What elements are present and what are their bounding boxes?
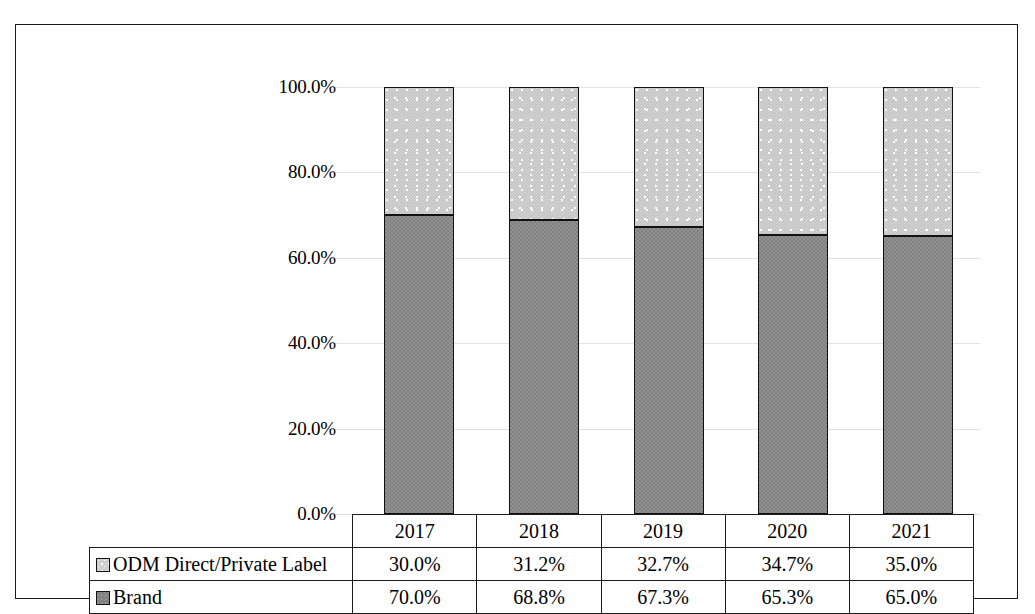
table-cell-value: 35.0% [849, 548, 973, 581]
table-header-year: 2019 [601, 515, 725, 548]
bar-group[interactable] [384, 87, 454, 514]
table-header-year: 2018 [477, 515, 601, 548]
table-cell-value: 67.3% [601, 581, 725, 614]
y-axis: 100.0%80.0%60.0%40.0%20.0%0.0% [218, 87, 336, 514]
y-axis-tick-label: 20.0% [226, 419, 336, 438]
bar-segment-odm-direct-private-label[interactable] [883, 87, 953, 236]
data-table: 20172018201920202021ODM Direct/Private L… [89, 514, 974, 614]
legend-entry[interactable]: ODM Direct/Private Label [90, 548, 353, 581]
bar-group[interactable] [634, 87, 704, 514]
legend-label: Brand [113, 586, 162, 608]
table-cell-value: 65.3% [725, 581, 849, 614]
bar-segment-brand[interactable] [758, 235, 828, 514]
table-row: ODM Direct/Private Label30.0%31.2%32.7%3… [90, 548, 974, 581]
legend-swatch-icon [96, 558, 110, 572]
bar-segment-odm-direct-private-label[interactable] [509, 87, 579, 220]
plot-area [352, 87, 976, 514]
table-cell-value: 32.7% [601, 548, 725, 581]
table-header-row: 20172018201920202021 [90, 515, 974, 548]
y-axis-tick-label: 100.0% [226, 77, 336, 96]
legend-label: ODM Direct/Private Label [113, 553, 327, 575]
table-cell-value: 30.0% [353, 548, 477, 581]
bar-segment-odm-direct-private-label[interactable] [758, 87, 828, 235]
table-header-year: 2020 [725, 515, 849, 548]
bar-segment-odm-direct-private-label[interactable] [384, 87, 454, 215]
bar-segment-odm-direct-private-label[interactable] [634, 87, 704, 227]
chart-outer-border: 100.0%80.0%60.0%40.0%20.0%0.0% 201720182… [15, 24, 1018, 599]
bar-segment-brand[interactable] [509, 220, 579, 514]
table-corner-spacer [90, 515, 353, 548]
table-cell-value: 70.0% [353, 581, 477, 614]
bar-group[interactable] [883, 87, 953, 514]
legend-entry[interactable]: Brand [90, 581, 353, 614]
y-axis-tick-label: 80.0% [226, 162, 336, 181]
table-cell-value: 31.2% [477, 548, 601, 581]
table-header-year: 2021 [849, 515, 973, 548]
legend-swatch-icon [96, 591, 110, 605]
table-cell-value: 34.7% [725, 548, 849, 581]
table-header-year: 2017 [353, 515, 477, 548]
table-cell-value: 68.8% [477, 581, 601, 614]
y-axis-tick-label: 60.0% [226, 248, 336, 267]
y-axis-tick-label: 40.0% [226, 333, 336, 352]
bar-segment-brand[interactable] [883, 236, 953, 514]
table-row: Brand70.0%68.8%67.3%65.3%65.0% [90, 581, 974, 614]
table-cell-value: 65.0% [849, 581, 973, 614]
bar-group[interactable] [509, 87, 579, 514]
bar-segment-brand[interactable] [634, 227, 704, 514]
bar-segment-brand[interactable] [384, 215, 454, 514]
bar-group[interactable] [758, 87, 828, 514]
